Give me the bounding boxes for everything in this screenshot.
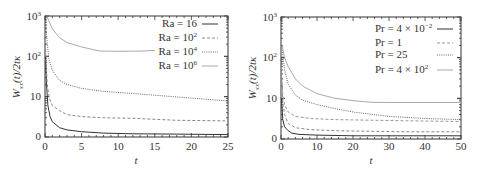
curve-0 — [281, 98, 461, 136]
left-xtick-4: 20 — [186, 140, 198, 152]
curve-2 — [281, 67, 461, 122]
curve-1 — [45, 49, 228, 121]
right-legend-label-2: Pr = 25 — [375, 48, 408, 60]
curve-3 — [282, 45, 461, 119]
left-ytick-2: 102 — [27, 50, 42, 62]
right-ytick-3: 103 — [263, 11, 278, 23]
right-xtick-2: 20 — [348, 140, 360, 152]
left-x-axis-label: t — [134, 154, 138, 166]
right-ytick-1: 10 — [266, 92, 278, 104]
left-plot-frame — [45, 16, 228, 137]
figure: 0 10 102 103 0 5 10 15 20 25 t Wxx(t)/2t… — [0, 0, 482, 173]
right-xtick-4: 40 — [420, 140, 432, 152]
right-ytick-2: 102 — [263, 51, 278, 63]
left-legend-label-1: Ra = 102 — [159, 31, 198, 43]
right-x-axis-label: t — [369, 154, 373, 166]
left-legend-label-2: Ra = 104 — [159, 45, 198, 57]
right-ytick-0: 0 — [272, 132, 278, 144]
right-legend-label-3: Pr = 4 × 102 — [375, 63, 429, 75]
left-ytick-0: 0 — [36, 130, 42, 142]
right-xtick-1: 10 — [312, 140, 324, 152]
right-chart-panel: 0 10 102 103 0 10 20 30 40 50 t Wxx(t)/2… — [246, 11, 467, 166]
left-legend-label-3: Ra = 106 — [159, 59, 198, 71]
left-xtick-1: 5 — [79, 140, 85, 152]
left-chart-panel: 0 10 102 103 0 5 10 15 20 25 t Wxx(t)/2t… — [10, 10, 234, 166]
left-xtick-0: 0 — [42, 140, 48, 152]
right-xtick-3: 30 — [384, 140, 396, 152]
curve-4 — [282, 45, 461, 102]
right-y-axis-label: Wxx(t)/2tκ — [246, 56, 261, 99]
left-ytick-1: 10 — [30, 90, 42, 102]
right-legend: Pr = 4 × 10−2 Pr = 1 Pr = 25 Pr = 4 × 10… — [375, 22, 453, 75]
right-legend-label-1: Pr = 1 — [375, 36, 402, 48]
left-curves — [45, 17, 228, 135]
right-legend-label-0: Pr = 4 × 10−2 — [375, 22, 433, 34]
left-xtick-5: 25 — [223, 140, 235, 152]
left-xtick-3: 15 — [149, 140, 161, 152]
left-legend: Ra = 16 Ra = 102 Ra = 104 Ra = 106 — [159, 17, 218, 71]
left-xtick-2: 10 — [113, 140, 125, 152]
right-xtick-0: 0 — [278, 140, 284, 152]
right-xtick-5: 50 — [456, 140, 468, 152]
right-curves — [281, 45, 461, 135]
curve-2 — [46, 25, 228, 101]
left-axis-ticks — [45, 16, 228, 137]
left-ytick-3: 103 — [27, 10, 42, 22]
curve-3 — [47, 17, 155, 51]
left-legend-label-0: Ra = 16 — [162, 17, 197, 29]
curve-0 — [45, 56, 228, 134]
left-y-axis-label: Wxx(t)/2tκ — [10, 55, 25, 98]
